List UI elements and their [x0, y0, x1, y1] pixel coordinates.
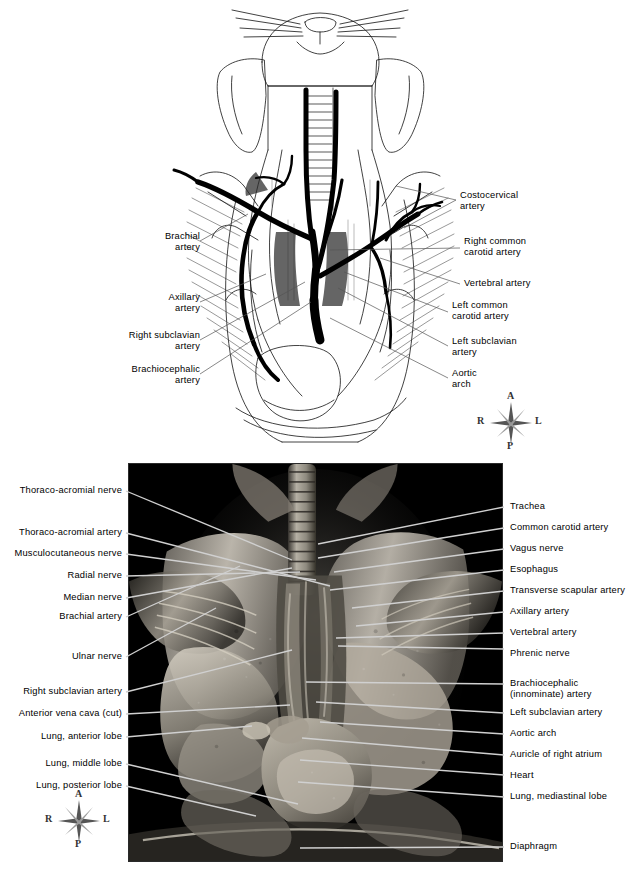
bottom-label-radial-nerve: Radial nerve: [0, 570, 122, 581]
top-label-brachial-artery: Brachial artery: [20, 231, 200, 253]
compass-label-posterior: P: [75, 838, 81, 849]
top-label-vertebral-artery: Vertebral artery: [464, 278, 639, 289]
arterial-line-drawing: [0, 0, 641, 460]
bottom-label-lung-mediastinal-lobe: Lung, mediastinal lobe: [510, 791, 641, 802]
top-panel-line-drawing: Brachial artery Axillary artery Right su…: [0, 0, 641, 460]
bottom-label-esophagus: Esophagus: [510, 564, 641, 575]
bottom-label-axillary-artery: Axillary artery: [510, 606, 641, 617]
top-label-right-subclavian-artery: Right subclavian artery: [20, 330, 200, 352]
top-label-right-common-carotid-artery: Right common carotid artery: [464, 236, 639, 258]
top-label-left-subclavian-artery: Left subclavian artery: [452, 336, 627, 358]
bottom-label-heart: Heart: [510, 770, 641, 781]
bottom-label-lung-middle-lobe: Lung, middle lobe: [0, 758, 122, 769]
bottom-label-aortic-arch: Aortic arch: [510, 728, 641, 739]
top-label-costocervical-artery: Costocervical artery: [460, 190, 635, 212]
compass-label-left: L: [535, 415, 542, 426]
top-label-axillary-artery: Axillary artery: [20, 292, 200, 314]
bottom-label-trachea: Trachea: [510, 501, 641, 512]
photo-content: [129, 464, 502, 861]
bottom-label-vagus-nerve: Vagus nerve: [510, 543, 641, 554]
bottom-label-musculocutaneous-nerve: Musculocutaneous nerve: [0, 548, 122, 559]
bottom-panel-dissection-photo: Thoraco-acromial nerve Thoraco-acromial …: [0, 460, 641, 874]
orientation-compass-bottom: A P R L: [48, 790, 110, 852]
compass-label-posterior: P: [507, 440, 513, 451]
bottom-label-thoraco-acromial-nerve: Thoraco-acromial nerve: [0, 485, 122, 496]
compass-label-anterior: A: [75, 788, 82, 799]
bottom-label-transverse-scapular-artery: Transverse scapular artery: [510, 585, 641, 596]
dissection-photograph: [128, 463, 503, 862]
orientation-compass-top: A P R L: [480, 392, 542, 454]
bottom-label-diaphragm: Diaphragm: [510, 841, 641, 852]
bottom-label-thoraco-acromial-artery: Thoraco-acromial artery: [0, 527, 122, 538]
top-label-aortic-arch: Aortic arch: [452, 368, 627, 390]
compass-label-right: R: [45, 813, 52, 824]
top-label-left-common-carotid-artery: Left common carotid artery: [452, 300, 627, 322]
bottom-label-left-subclavian-artery: Left subclavian artery: [510, 707, 641, 718]
bottom-label-phrenic-nerve: Phrenic nerve: [510, 648, 641, 659]
top-panel-leader-lines: [0, 0, 641, 460]
bottom-label-vertebral-artery: Vertebral artery: [510, 627, 641, 638]
bottom-label-anterior-vena-cava-cut: Anterior vena cava (cut): [0, 708, 122, 719]
compass-label-anterior: A: [507, 390, 514, 401]
bottom-label-brachial-artery: Brachial artery: [0, 611, 122, 622]
compass-label-right: R: [477, 415, 484, 426]
bottom-label-right-subclavian-artery: Right subclavian artery: [0, 686, 122, 697]
compass-label-left: L: [103, 813, 110, 824]
bottom-label-median-nerve: Median nerve: [0, 592, 122, 603]
top-label-brachiocephalic-artery: Brachiocephalic artery: [20, 364, 200, 386]
bottom-label-brachiocephalic-innominate-artery: Brachiocephalic (innominate) artery: [510, 678, 641, 700]
bottom-label-auricle-of-right-atrium: Auricle of right atrium: [510, 749, 641, 760]
bottom-label-common-carotid-artery: Common carotid artery: [510, 522, 641, 533]
bottom-label-ulnar-nerve: Ulnar nerve: [0, 651, 122, 662]
bottom-label-lung-anterior-lobe: Lung, anterior lobe: [0, 731, 122, 742]
